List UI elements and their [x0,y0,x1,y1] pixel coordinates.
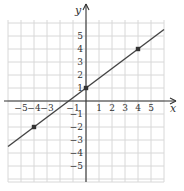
x-tick-label: 2 [109,103,115,113]
y-tick-label: −3 [70,135,84,145]
x-tick-label: −3 [40,103,54,113]
data-point-marker [32,125,36,129]
y-tick-label: −1 [70,109,83,119]
x-tick-label: 5 [148,103,154,113]
y-tick-label: −5 [70,161,84,171]
data-point-marker [84,86,88,90]
x-tick-label: 4 [135,103,141,113]
y-tick-label: 4 [77,44,83,54]
x-tick-label: 1 [96,103,102,113]
x-axis-label: x [170,102,177,115]
y-tick-label: 2 [77,70,83,80]
axes [4,4,176,182]
y-tick-label: 3 [77,57,83,67]
y-axis-label: y [74,4,82,17]
coordinate-plane: −5−4−3−11234554321−1−2−3−4−5 x y [0,0,184,191]
y-tick-label: 5 [77,31,83,41]
x-tick-label: −4 [27,103,41,113]
x-tick-label: −5 [14,103,28,113]
data-point-marker [136,47,140,51]
y-tick-label: −4 [70,148,84,158]
x-tick-label: 3 [122,103,128,113]
y-tick-label: −2 [70,122,83,132]
